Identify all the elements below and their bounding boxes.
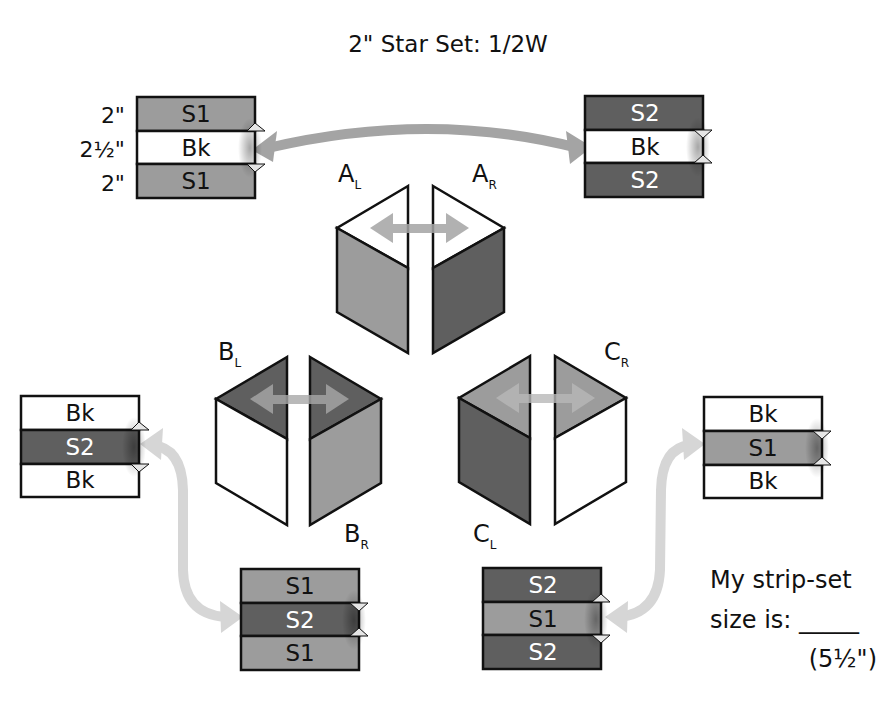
strip-set-top-right: S2 Bk S2	[585, 96, 712, 197]
strip-label: Bk	[65, 467, 95, 493]
unit-label-a-right: AR	[472, 160, 497, 192]
strip-set-size-note: My strip-set size is: _____ (5½")	[710, 566, 877, 673]
note-line-1: My strip-set	[710, 566, 852, 594]
strip-set-bottom-right: S2 S1 S2	[483, 568, 610, 669]
strip-label: S2	[65, 434, 94, 460]
unit-label-c-right: CR	[604, 338, 629, 370]
dimension-label: 2½"	[80, 137, 125, 162]
strip-label: Bk	[181, 135, 211, 161]
strip-label: S2	[528, 572, 557, 598]
strip-label: S2	[630, 167, 659, 193]
unit-b: BL BR	[216, 338, 381, 552]
unit-label-a-left: AL	[338, 160, 361, 192]
strip-set-mid-left: Bk S2 Bk	[21, 396, 149, 497]
strip-label: S1	[528, 606, 557, 632]
unit-label-b-left: BL	[218, 338, 241, 370]
strip-label: S2	[630, 100, 659, 126]
strip-label: Bk	[630, 134, 660, 160]
strip-set-mid-right: Bk S1 Bk	[704, 397, 831, 498]
unit-label-b-right: BR	[344, 520, 369, 552]
strip-label: S1	[285, 573, 314, 599]
star-set-diagram: 2" Star Set: 1/2W 2" 2½" 2" S1 Bk S1	[0, 0, 895, 719]
strip-label: Bk	[748, 401, 778, 427]
dimension-label: 2"	[101, 103, 125, 128]
strip-set-top-left: 2" 2½" 2" S1 Bk S1	[80, 97, 265, 198]
strip-label: S2	[528, 639, 557, 665]
strip-label: Bk	[748, 468, 778, 494]
strip-label: S1	[181, 101, 210, 127]
strip-label: Bk	[65, 400, 95, 426]
strip-label: S2	[285, 607, 314, 633]
diagram-title: 2" Star Set: 1/2W	[348, 31, 548, 57]
note-line-3: (5½")	[809, 645, 877, 673]
strip-label: S1	[748, 435, 777, 461]
strip-label: S1	[181, 168, 210, 194]
top-double-arrow	[252, 129, 592, 164]
unit-label-c-left: CL	[473, 520, 497, 552]
unit-c: CR CL	[459, 338, 629, 552]
note-line-2: size is: _____	[710, 606, 860, 634]
strip-set-bottom-left: S1 S2 S1	[241, 569, 368, 670]
dimension-label: 2"	[101, 171, 125, 196]
unit-a: AL AR	[337, 160, 504, 353]
strip-label: S1	[285, 640, 314, 666]
